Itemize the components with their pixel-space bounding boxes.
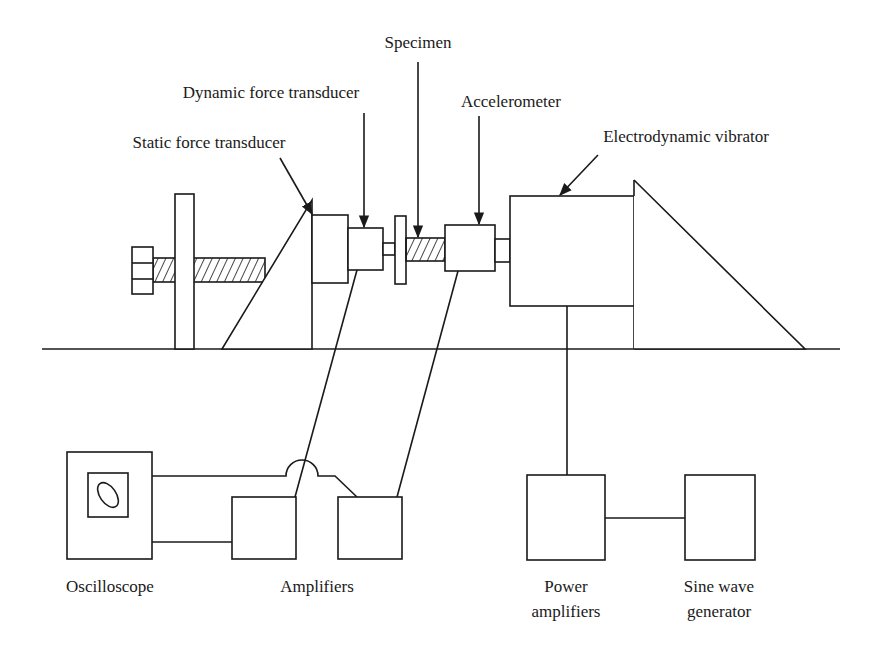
accelerometer <box>445 225 495 271</box>
label-electrodynamic-vibrator: Electrodynamic vibrator <box>603 127 769 146</box>
label-oscilloscope: Oscilloscope <box>66 577 154 596</box>
label-dynamic-force-transducer: Dynamic force transducer <box>183 83 360 102</box>
wire-scope-to-amp2 <box>152 460 357 497</box>
label-static-force-transducer: Static force transducer <box>133 133 286 152</box>
label-power-amplifiers-1: Power <box>544 577 588 596</box>
specimen <box>406 238 445 261</box>
arrow-static <box>280 158 312 214</box>
connector-2 <box>495 239 510 262</box>
static-force-transducer <box>312 215 348 283</box>
electrodynamic-vibrator <box>510 196 634 306</box>
wire-accel-to-amp <box>397 271 458 497</box>
label-amplifiers: Amplifiers <box>280 577 354 596</box>
hex-nut <box>132 247 153 294</box>
label-sine-wave-generator-1: Sine wave <box>684 577 754 596</box>
right-triangle-support <box>634 180 805 349</box>
threaded-rod <box>153 258 265 282</box>
power-amplifiers <box>527 475 605 560</box>
dynamic-force-transducer <box>348 228 383 270</box>
amplifier-2 <box>338 497 402 559</box>
oscilloscope <box>67 452 152 559</box>
disc-plate <box>395 216 406 284</box>
amplifier-1 <box>232 497 296 559</box>
label-accelerometer: Accelerometer <box>461 92 561 111</box>
arrow-vibrator <box>560 155 598 195</box>
connector-1 <box>383 243 395 255</box>
vibration-test-diagram: Specimen Dynamic force transducer Accele… <box>0 0 870 661</box>
label-sine-wave-generator-2: generator <box>687 602 752 621</box>
support-plate <box>175 194 194 349</box>
oscilloscope-screen <box>88 473 128 517</box>
label-specimen: Specimen <box>384 33 452 52</box>
label-power-amplifiers-2: amplifiers <box>532 602 601 621</box>
sine-wave-generator <box>685 475 755 560</box>
